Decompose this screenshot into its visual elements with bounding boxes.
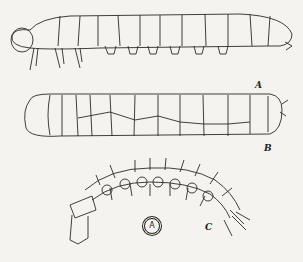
larva-a-drawing bbox=[11, 14, 292, 70]
larva-b-drawing bbox=[25, 94, 288, 136]
panel-label-b: B bbox=[264, 143, 272, 153]
circled-a-mark: A bbox=[144, 218, 160, 234]
panel-label-c: C bbox=[205, 222, 212, 232]
larva-c-drawing bbox=[70, 158, 250, 244]
panel-label-a: A bbox=[255, 80, 262, 90]
